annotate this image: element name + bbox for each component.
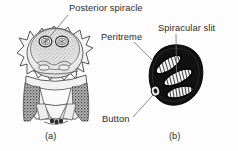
leader-spiracular-slit <box>176 34 177 72</box>
larva-papilla-right <box>59 65 69 70</box>
panel-a-artwork <box>17 26 93 124</box>
label-button: Button <box>102 114 129 124</box>
larva-anal-plate <box>40 88 71 106</box>
larva-papilla-left <box>39 65 49 70</box>
caption-panel-a: (a) <box>45 131 56 141</box>
caption-panel-b: (b) <box>169 131 180 141</box>
leader-button <box>133 95 153 117</box>
label-spiracular-slit: Spiracular slit <box>158 23 215 33</box>
leader-peritreme <box>134 42 153 61</box>
label-posterior-spiracle: Posterior spiracle <box>69 3 143 13</box>
figure-container: Posterior spiracle Peritreme Spiracular … <box>0 0 238 151</box>
label-peritreme: Peritreme <box>101 32 142 42</box>
